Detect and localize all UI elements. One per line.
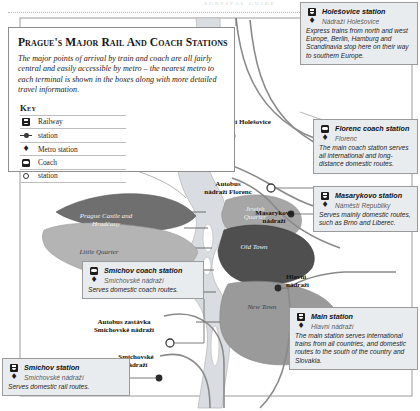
callout-masarykovo-title: Masarykovo station	[335, 191, 402, 200]
callout-smichov-subtitle: Smíchovské nádraží	[24, 374, 84, 381]
key-item-coach-station-label: station	[38, 171, 58, 180]
callout-smichov-title: Smíchov station	[24, 363, 80, 372]
rail-station-icon	[20, 133, 32, 138]
district-label-old-town: Old Town	[218, 243, 290, 251]
key-item-metro-station-label: Metro station	[38, 145, 78, 154]
callout-smichov-coach-head: Smíchov coach station	[88, 266, 198, 275]
page-intro: The major points of arrival by train and…	[18, 54, 218, 96]
callout-main-station: Main station ♦ Hlavní nádraží The main s…	[289, 307, 418, 370]
metro-icon: ♦	[306, 17, 318, 25]
page-title: Prague's Major Rail and Coach Stations	[18, 36, 225, 48]
key-item-coach-label: Coach	[38, 158, 57, 167]
callout-florenc-sub: ♦ Florenc	[319, 134, 412, 142]
key-item-railway: Railway	[20, 115, 126, 129]
railway-icon	[306, 8, 318, 16]
callout-smichov-coach-subtitle: Smíchovské nádraží	[104, 277, 164, 284]
callout-florenc-title: Florenc coach station	[335, 124, 409, 133]
coach-station-icon	[20, 173, 32, 179]
metro-icon: ♦	[295, 322, 307, 330]
railway-icon	[20, 118, 32, 126]
railway-icon	[319, 192, 331, 200]
callout-smichov-coach-station: Smíchov coach station ♦ Smíchovské nádra…	[82, 261, 204, 299]
running-header: SURVIVAL GUIDE	[165, 1, 315, 9]
metro-icon: ♦	[319, 134, 331, 142]
coach-icon	[319, 125, 331, 133]
info-panel: Prague's Major Rail and Coach Stations T…	[8, 27, 235, 172]
callout-smichov-head: Smíchov station	[8, 363, 124, 372]
map-label-hlavni-line1: Hlavní	[286, 273, 332, 281]
map-label-masarykovo-line1: Masarykovo	[236, 209, 312, 217]
callout-holesovice-sub: ♦ Nádraží Holešovice	[306, 17, 412, 25]
key-item-metro-station: ♦ Metro station	[20, 142, 126, 156]
callout-main-body: The main station serves international tr…	[295, 332, 412, 366]
metro-icon: ♦	[8, 373, 20, 381]
map-label-florenc-line1: Autobus	[185, 180, 271, 188]
callout-smichov-station: Smíchov station ♦ Smíchovské nádraží Ser…	[2, 358, 130, 396]
district-old-town-line1: Old Town	[218, 243, 290, 251]
key-item-rail-station-label: station	[38, 131, 58, 140]
district-little-quarter-line1: Little Quarter	[50, 248, 148, 256]
metro-icon: ♦	[319, 201, 331, 209]
railway-icon	[8, 364, 20, 372]
key-item-coach: Coach	[20, 155, 126, 169]
coach-icon	[20, 159, 32, 167]
header-rule	[8, 12, 308, 13]
callout-main-sub: ♦ Hlavní nádraží	[295, 322, 412, 330]
railway-icon	[295, 313, 307, 321]
callout-main-title: Main station	[311, 312, 353, 321]
metro-icon: ♦	[20, 145, 32, 153]
key-list: Railway station ♦ Metro station Coach st…	[20, 115, 126, 183]
key-item-railway-label: Railway	[38, 117, 63, 126]
callout-masarykovo-head: Masarykovo station	[319, 191, 412, 200]
callout-masarykovo-station: Masarykovo station ♦ Náměstí Republiky S…	[313, 186, 418, 232]
callout-main-subtitle: Hlavní nádraží	[311, 323, 354, 330]
metro-icon: ♦	[88, 276, 100, 284]
callout-holesovice-title: Holešovice station	[322, 7, 386, 16]
coach-icon	[88, 267, 100, 275]
map-label-hlavni-line2: nádraží	[286, 281, 332, 289]
callout-masarykovo-sub: ♦ Náměstí Republiky	[319, 201, 412, 209]
callout-holesovice-body: Express trains from north and west Europ…	[306, 27, 412, 61]
callout-masarykovo-body: Serves mainly domestic routes, such as B…	[319, 211, 412, 228]
callout-florenc-subtitle: Florenc	[335, 135, 357, 142]
callout-smichov-coach-body: Serves domestic coach routes.	[88, 286, 198, 294]
district-hradcany-line1: Prague Castle and	[58, 212, 154, 220]
callout-smichov-body: Serves domestic rail routes.	[8, 383, 124, 391]
callout-holesovice-subtitle: Nádraží Holešovice	[322, 18, 379, 25]
callout-smichov-coach-sub: ♦ Smíchovské nádraží	[88, 276, 198, 284]
map-label-florenc: Autobus nádraží Florenc	[185, 180, 271, 197]
map-label-florenc-line2: nádraží Florenc	[185, 188, 271, 196]
map-label-smichov-bus: Autobus zastávka Smíchovské nádraží	[82, 318, 166, 335]
callout-florenc-head: Florenc coach station	[319, 124, 412, 133]
callout-florenc-body: The main coach station serves all intern…	[319, 144, 412, 169]
district-label-hradcany: Prague Castle and Hradčany	[58, 212, 154, 228]
callout-smichov-sub: ♦ Smíchovské nádraží	[8, 373, 124, 381]
callout-smichov-coach-title: Smíchov coach station	[104, 266, 182, 275]
map-label-masarykovo: Masarykovo nádraží	[236, 209, 312, 226]
map-label-smichov-bus-line1: Autobus zastávka	[82, 318, 166, 326]
map-label-smichov-bus-line2: Smíchovské nádraží	[82, 326, 166, 334]
callout-florenc-coach-station: Florenc coach station ♦ Florenc The main…	[313, 119, 418, 174]
callout-holesovice-head: Holešovice station	[306, 7, 412, 16]
key-item-coach-station: station	[20, 169, 126, 183]
key-heading: Key	[20, 103, 225, 113]
key-item-rail-station: station	[20, 128, 126, 142]
callout-masarykovo-subtitle: Náměstí Republiky	[335, 202, 390, 209]
district-label-little-quarter: Little Quarter	[50, 248, 148, 256]
callout-main-head: Main station	[295, 312, 412, 321]
callout-holesovice-station: Holešovice station ♦ Nádraží Holešovice …	[300, 2, 418, 65]
map-label-hlavni: Hlavní nádraží	[286, 273, 332, 290]
district-hradcany-line2: Hradčany	[58, 220, 154, 228]
map-label-masarykovo-line2: nádraží	[236, 217, 312, 225]
